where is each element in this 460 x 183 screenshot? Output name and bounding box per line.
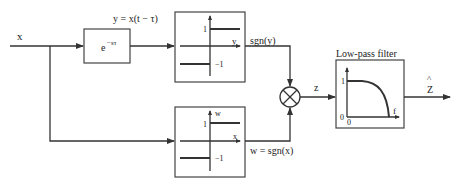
- delay-output-label: y = x(t − τ): [113, 13, 158, 25]
- tick-low: 0: [340, 113, 344, 122]
- tick-high: 1: [203, 25, 207, 34]
- sign-top-to-multiplier: [245, 46, 290, 86]
- freq-axis-label: f: [393, 106, 396, 116]
- tick-low: −1: [215, 154, 224, 163]
- input-label: x: [17, 30, 23, 42]
- lowpass-filter-block: 1 0 0 f: [336, 60, 404, 128]
- output-label: Z: [427, 84, 433, 95]
- sign-block-bottom: 1 −1 w x: [175, 107, 245, 177]
- sign-bottom-output-label: w = sgn(x): [250, 145, 293, 157]
- axis-y-label: w: [215, 109, 221, 118]
- delay-label-base: e: [101, 42, 106, 53]
- output-hat: ^: [427, 74, 432, 84]
- multiplier-output-label: z: [314, 82, 319, 93]
- delay-label-exponent: −sτ: [107, 39, 117, 47]
- multiplier-icon: [280, 87, 300, 107]
- tick-low: −1: [215, 60, 224, 69]
- axis-x-label: x: [233, 132, 237, 141]
- sign-bottom-to-multiplier: [245, 108, 290, 141]
- tick-origin: 0: [347, 118, 351, 127]
- signal-flow-diagram: x e −sτ y = x(t − τ) 1 −1 y sgn(y) 1 −1 …: [0, 0, 460, 183]
- delay-block: e −sτ: [84, 29, 130, 63]
- axis-label: y: [232, 36, 237, 46]
- tick-high: 1: [341, 77, 345, 86]
- sign-block-top: 1 −1 y: [175, 12, 245, 82]
- tick-high: 1: [203, 120, 207, 129]
- filter-title: Low-pass filter: [336, 48, 397, 59]
- sign-top-output-label: sgn(y): [250, 35, 276, 47]
